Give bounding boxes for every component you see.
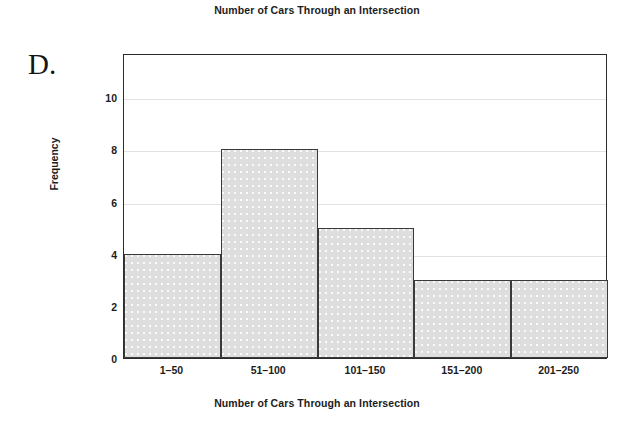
x-axis-tick-label: 51–100 (251, 364, 286, 376)
y-axis-tick-label: 10 (77, 92, 117, 104)
y-axis-tick-label: 8 (77, 144, 117, 156)
bar (124, 254, 221, 358)
bar (318, 228, 415, 358)
x-axis-tick-label: 151–200 (441, 364, 482, 376)
y-axis-tick-label: 4 (77, 249, 117, 261)
chart-title: Number of Cars Through an Intersection (0, 4, 634, 16)
y-axis-tick-label: 2 (77, 301, 117, 313)
x-axis-tick-labels: 1–5051–100101–150151–200201–250 (123, 364, 607, 380)
x-axis-label: Number of Cars Through an Intersection (0, 397, 634, 409)
y-axis-tick-labels: 0246810 (72, 54, 117, 359)
y-axis-tick-label: 0 (77, 353, 117, 365)
bar (221, 149, 318, 358)
y-axis-tick-label: 6 (77, 197, 117, 209)
x-axis-tick-label: 1–50 (160, 364, 183, 376)
panel-letter: D. (28, 50, 56, 79)
bar-series (124, 55, 606, 358)
x-axis-tick-label: 201–250 (538, 364, 579, 376)
y-axis-label: Frequency (48, 94, 60, 234)
bar (511, 280, 608, 358)
bar (414, 280, 511, 358)
x-axis-tick-label: 101–150 (345, 364, 386, 376)
plot-area (123, 54, 607, 359)
